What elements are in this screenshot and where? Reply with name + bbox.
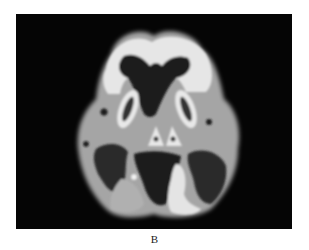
brain-scan-image <box>16 14 292 229</box>
brain-scan-graphic <box>16 14 292 229</box>
panel-label: B <box>0 233 309 245</box>
